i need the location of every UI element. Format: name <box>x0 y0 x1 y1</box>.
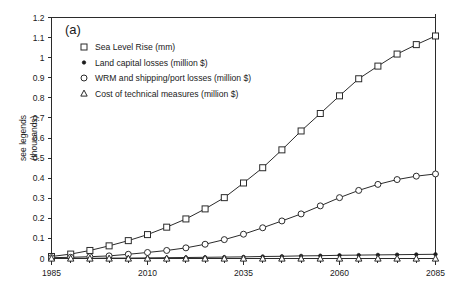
legend-label: Sea Level Rise (mm) <box>95 42 175 52</box>
legend-label: WRM and shipping/port losses (million $) <box>95 73 251 83</box>
series-marker <box>433 171 439 177</box>
series-marker <box>241 231 247 237</box>
series-marker <box>394 177 400 183</box>
legend-marker-open-circle-icon <box>81 75 87 81</box>
series-marker <box>260 225 266 231</box>
series-marker <box>317 110 323 116</box>
series-marker <box>298 128 304 134</box>
y-axis-title-line2: (thousands) <box>29 115 39 160</box>
legend-item: Cost of technical measures (million $) <box>81 89 239 99</box>
series-marker <box>375 63 381 69</box>
legend-item: WRM and shipping/port losses (million $) <box>81 73 251 83</box>
series-marker <box>356 187 362 193</box>
series-marker <box>260 165 266 171</box>
series-marker <box>145 232 151 238</box>
series-marker <box>241 180 247 186</box>
legend-label: Land capital losses (million $) <box>95 58 208 68</box>
y-tick-label: 1 <box>40 53 45 63</box>
y-tick-label: 0.3 <box>33 193 45 203</box>
axis-frame <box>52 18 436 259</box>
series-marker <box>183 216 189 222</box>
x-tick-label: 2010 <box>138 268 157 278</box>
x-tick-label: 2035 <box>234 268 253 278</box>
series-marker <box>337 93 343 99</box>
series-marker <box>125 238 131 244</box>
series-marker <box>337 195 343 201</box>
series-marker <box>164 247 170 253</box>
series-marker <box>279 147 285 153</box>
series-marker <box>221 195 227 201</box>
x-tick-label: 2060 <box>330 268 349 278</box>
series-marker <box>221 237 227 243</box>
series-marker <box>183 245 189 251</box>
series-marker <box>413 42 419 48</box>
y-axis-title-line1: see legends <box>18 115 28 161</box>
legend-marker-open-square-icon <box>81 44 87 50</box>
panel-label: (a) <box>65 22 81 37</box>
series-marker <box>317 203 323 209</box>
series-marker <box>356 76 362 82</box>
y-tick-label: 1.2 <box>33 13 45 23</box>
series-marker <box>202 206 208 212</box>
y-axis-title: see legends(thousands) <box>18 115 39 161</box>
series-marker <box>375 181 381 187</box>
chart-figure: 00.10.20.30.40.50.60.70.80.911.11.219852… <box>0 0 451 288</box>
x-tick-label: 1985 <box>42 268 61 278</box>
y-tick-label: 0.1 <box>33 233 45 243</box>
y-tick-label: 0.2 <box>33 213 45 223</box>
y-tick-label: 0.9 <box>33 73 45 83</box>
y-tick-label: 0.8 <box>33 93 45 103</box>
series-marker <box>279 218 285 224</box>
y-tick-label: 1.1 <box>33 33 45 43</box>
series-marker <box>202 241 208 247</box>
legend-item: Land capital losses (million $) <box>82 58 208 68</box>
legend-label: Cost of technical measures (million $) <box>95 89 238 99</box>
legend-item: Sea Level Rise (mm) <box>81 42 175 52</box>
series-marker <box>413 173 419 179</box>
legend-marker-open-triangle-icon <box>81 90 87 96</box>
series-marker <box>394 51 400 57</box>
series-marker <box>433 33 439 39</box>
series-marker <box>298 211 304 217</box>
series-marker <box>106 243 112 249</box>
y-tick-label: 0.4 <box>33 173 45 183</box>
y-tick-label: 0 <box>40 254 45 264</box>
legend-marker-filled-dot-icon <box>82 61 85 64</box>
series-marker <box>164 224 170 230</box>
series-marker <box>87 247 93 253</box>
x-tick-label: 2085 <box>426 268 445 278</box>
